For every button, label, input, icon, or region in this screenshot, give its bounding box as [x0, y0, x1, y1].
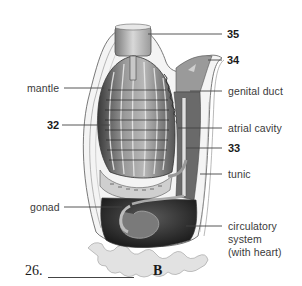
label-circulatory-line2: system [228, 233, 262, 245]
answer-letter: B [153, 263, 162, 279]
label-tunic: tunic [228, 168, 251, 180]
label-atrial-cavity: atrial cavity [228, 122, 282, 134]
tunicate-diagram: 35 34 mantle genital duct 32 atrial cavi… [0, 0, 302, 286]
label-circulatory-line3: (with heart) [228, 246, 282, 258]
question-number: 26. [25, 263, 43, 279]
label-genital-duct: genital duct [228, 85, 283, 97]
label-number-35: 35 [227, 28, 239, 40]
label-circulatory-line1: circulatory [228, 220, 277, 232]
answer-blank[interactable] [48, 277, 134, 278]
label-number-34: 34 [227, 54, 239, 66]
label-number-32: 32 [47, 119, 59, 131]
label-mantle: mantle [27, 82, 59, 94]
label-gonad: gonad [30, 201, 60, 213]
label-number-33: 33 [228, 142, 240, 154]
